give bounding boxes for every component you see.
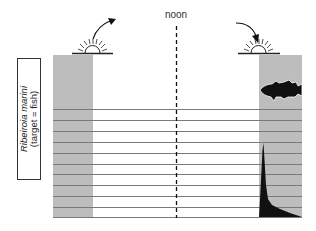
sunrise-arrow-icon bbox=[93, 18, 116, 39]
sunset-arrow-icon bbox=[236, 23, 259, 43]
sunrise-icon bbox=[72, 39, 113, 54]
noon-label: noon bbox=[161, 9, 191, 20]
y-axis-label: Ribeiroia marini (target = fish) bbox=[19, 58, 39, 180]
target-label: (target = fish) bbox=[29, 58, 39, 180]
emergence-diagram bbox=[0, 0, 316, 231]
night-band-left bbox=[53, 55, 93, 218]
sunset-icon bbox=[238, 39, 280, 54]
y-axis-label-box: Ribeiroia marini (target = fish) bbox=[17, 58, 41, 180]
